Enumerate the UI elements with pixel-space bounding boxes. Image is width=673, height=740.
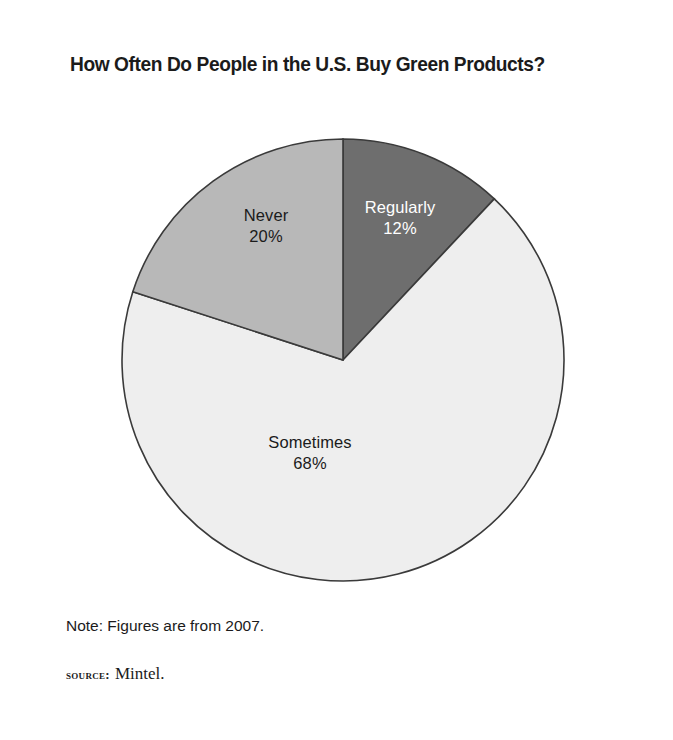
pie-chart-svg: Regularly12%Sometimes68%Never20% bbox=[121, 138, 565, 582]
pie-slice-value-sometimes: 68% bbox=[293, 454, 327, 472]
chart-title: How Often Do People in the U.S. Buy Gree… bbox=[70, 52, 575, 76]
source-value: Mintel. bbox=[115, 664, 165, 683]
source-label: Source: bbox=[66, 667, 110, 682]
pie-slice-group bbox=[122, 139, 564, 581]
pie-chart: Regularly12%Sometimes68%Never20% bbox=[121, 138, 565, 582]
figure-root: How Often Do People in the U.S. Buy Gree… bbox=[0, 0, 673, 740]
chart-source: Source:Mintel. bbox=[66, 664, 165, 684]
chart-note: Note: Figures are from 2007. bbox=[66, 617, 264, 635]
pie-slice-label-never: Never bbox=[244, 206, 289, 224]
pie-slice-value-never: 20% bbox=[249, 227, 283, 245]
pie-slice-label-sometimes: Sometimes bbox=[268, 433, 351, 451]
pie-slice-value-regularly: 12% bbox=[383, 219, 417, 237]
pie-slice-label-regularly: Regularly bbox=[365, 198, 436, 216]
